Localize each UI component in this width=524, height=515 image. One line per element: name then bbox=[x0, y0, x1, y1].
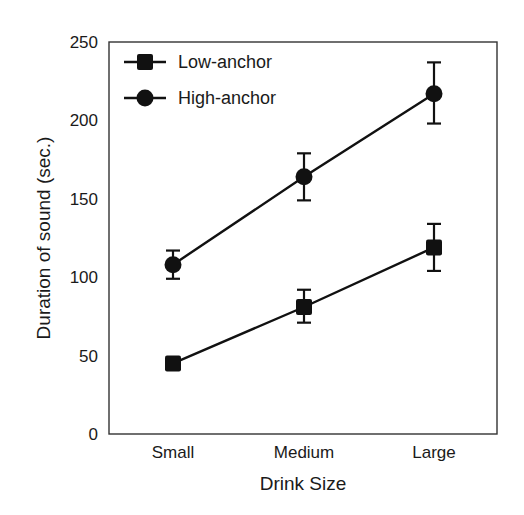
y-tick-label: 50 bbox=[79, 347, 98, 366]
y-axis-title: Duration of sound (sec.) bbox=[33, 137, 54, 340]
legend-label: High-anchor bbox=[178, 88, 276, 108]
x-axis-ticks: SmallMediumLarge bbox=[152, 443, 456, 462]
data-point bbox=[426, 239, 442, 255]
x-tick-label: Small bbox=[152, 443, 195, 462]
series-layer bbox=[165, 62, 443, 371]
y-tick-label: 150 bbox=[70, 190, 98, 209]
legend-label: Low-anchor bbox=[178, 52, 272, 72]
data-point bbox=[426, 85, 443, 102]
data-point bbox=[296, 168, 313, 185]
line-chart: 050100150200250 SmallMediumLarge Drink S… bbox=[0, 0, 524, 515]
y-tick-label: 250 bbox=[70, 33, 98, 52]
plot-frame bbox=[109, 42, 497, 434]
y-tick-label: 100 bbox=[70, 268, 98, 287]
y-tick-label: 200 bbox=[70, 111, 98, 130]
data-point bbox=[296, 299, 312, 315]
x-tick-label: Medium bbox=[274, 443, 334, 462]
y-tick-label: 0 bbox=[89, 425, 98, 444]
legend-circle-icon bbox=[137, 90, 154, 107]
data-point bbox=[165, 355, 181, 371]
series-low-anchor bbox=[165, 224, 442, 372]
x-axis-title: Drink Size bbox=[260, 473, 347, 494]
y-axis-ticks: 050100150200250 bbox=[70, 33, 98, 444]
x-tick-label: Large bbox=[412, 443, 455, 462]
legend-square-icon bbox=[137, 54, 153, 70]
legend: Low-anchorHigh-anchor bbox=[124, 52, 276, 108]
data-point bbox=[165, 256, 182, 273]
legend-item-low-anchor: Low-anchor bbox=[124, 52, 272, 72]
legend-item-high-anchor: High-anchor bbox=[124, 88, 276, 108]
